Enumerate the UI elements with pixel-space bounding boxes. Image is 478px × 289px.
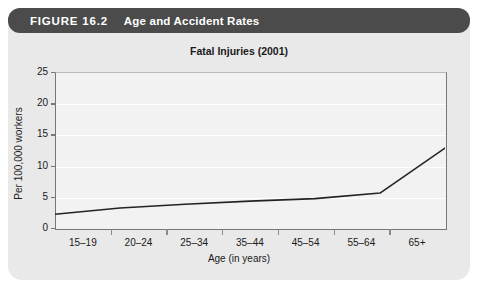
x-tick-mark-2 (166, 229, 167, 235)
y-tick-label-0: 0 (8, 222, 48, 233)
x-tick-mark-3 (222, 229, 223, 235)
figure-number-label: FIGURE 16.2 (30, 15, 108, 27)
x-tick-mark-6 (389, 229, 390, 235)
x-axis-title: Age (in years) (0, 253, 478, 264)
y-tick-mark-25 (51, 72, 55, 73)
y-tick-label-10: 10 (8, 160, 48, 171)
series-line-fatal-injuries (55, 72, 445, 228)
x-tick-label-65-plus: 65+ (382, 237, 452, 248)
y-tick-mark-5 (51, 197, 55, 198)
y-tick-label-5: 5 (8, 191, 48, 202)
x-tick-mark-1 (111, 229, 112, 235)
chart-title: Fatal Injuries (2001) (0, 45, 478, 57)
figure-header-bar: FIGURE 16.2 Age and Accident Rates (8, 8, 470, 33)
y-tick-mark-20 (51, 103, 55, 104)
figure-root: FIGURE 16.2 Age and Accident Rates Fatal… (0, 0, 478, 289)
y-tick-mark-10 (51, 166, 55, 167)
x-tick-mark-4 (278, 229, 279, 235)
figure-caption-label: Age and Accident Rates (124, 15, 260, 27)
y-tick-mark-0 (51, 228, 55, 229)
y-tick-label-20: 20 (8, 97, 48, 108)
y-tick-label-25: 25 (8, 66, 48, 77)
x-tick-mark-5 (334, 229, 335, 235)
y-tick-mark-15 (51, 134, 55, 135)
y-tick-label-15: 15 (8, 128, 48, 139)
